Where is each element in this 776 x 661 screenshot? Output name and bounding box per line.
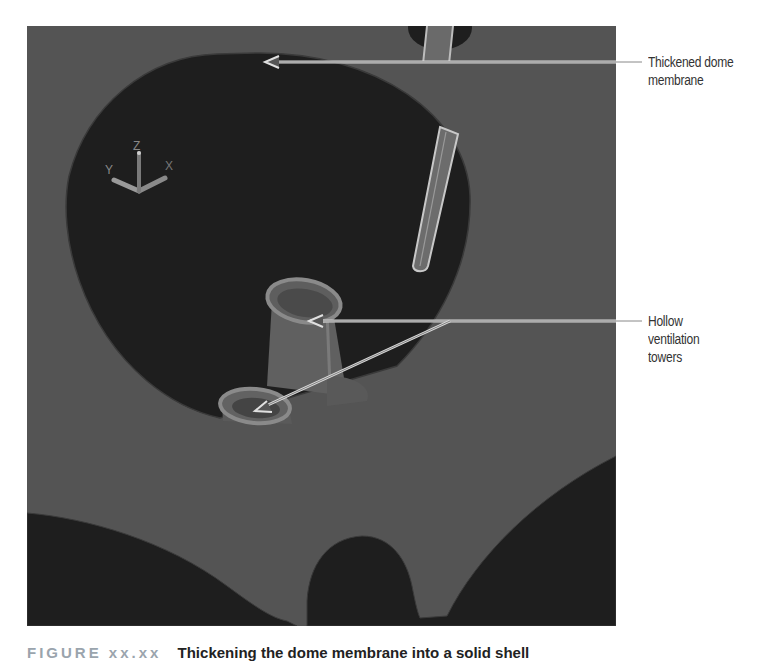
callout-towers-line-3: towers: [648, 348, 699, 366]
ucs-axis-x: X: [165, 159, 173, 173]
figure-number: FIGURE xx.xx: [27, 644, 161, 661]
callout-dome-line-2: membrane: [648, 71, 733, 89]
ucs-axis-z: Z: [133, 139, 140, 153]
model-render: Y Z X: [27, 26, 616, 626]
callout-towers-line-2: ventilation: [648, 330, 699, 348]
callout-towers-label: Hollow ventilation towers: [648, 312, 699, 366]
callout-towers-line-1: Hollow: [648, 312, 699, 330]
lower-cutout-left: [27, 513, 297, 626]
dome-opening: [66, 53, 470, 418]
pipe-top: [423, 26, 453, 62]
lower-cutout-middle: [307, 456, 616, 626]
callout-dome-label: Thickened dome membrane: [648, 53, 733, 89]
3d-viewport[interactable]: Y Z X: [27, 26, 616, 626]
callout-dome-line-1: Thickened dome: [648, 53, 733, 71]
ucs-axis-y: Y: [105, 163, 113, 177]
figure-caption-text: Thickening the dome membrane into a soli…: [178, 644, 530, 661]
figure-caption: FIGURE xx.xx Thickening the dome membran…: [27, 644, 529, 661]
